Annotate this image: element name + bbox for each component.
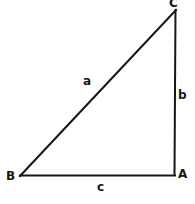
- vertex-label-a: A: [178, 168, 187, 180]
- vertex-label-b: B: [6, 170, 15, 182]
- triangle-side-a-hypotenuse: [20, 10, 176, 176]
- triangle-svg: [0, 0, 195, 204]
- side-label-a: a: [83, 75, 91, 87]
- side-label-b: b: [178, 89, 187, 101]
- triangle-side-b-vertical-leg: [175, 10, 176, 175]
- side-label-c: c: [97, 181, 104, 193]
- right-triangle-figure: C B A a b c: [0, 0, 195, 204]
- vertex-label-c: C: [169, 0, 178, 9]
